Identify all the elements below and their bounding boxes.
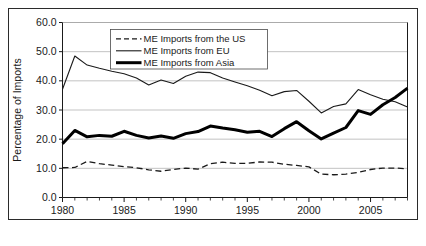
y-tick-label: 60.0 [36, 16, 57, 28]
y-axis-title: Percentage of Imports [11, 58, 23, 161]
y-tick-label: 40.0 [36, 74, 57, 86]
y-tick-label: 0.0 [42, 191, 57, 203]
series-line [63, 88, 408, 144]
x-tick-label: 1995 [236, 204, 260, 216]
line-chart: 0.010.020.030.040.050.060.0 198019851990… [0, 0, 426, 246]
figure-container: 0.010.020.030.040.050.060.0 198019851990… [0, 0, 426, 246]
legend-label: ME Imports from the US [144, 33, 246, 44]
legend-label: ME Imports from Asia [144, 57, 236, 68]
x-axis-ticks: 198019851990199520002005 [51, 198, 408, 216]
y-tick-label: 30.0 [36, 104, 57, 116]
y-axis-ticks: 0.010.020.030.040.050.060.0 [36, 16, 62, 203]
y-tick-label: 20.0 [36, 133, 57, 145]
x-tick-label: 1990 [174, 204, 198, 216]
y-tick-label: 50.0 [36, 45, 57, 57]
y-axis-title-text: Percentage of Imports [11, 58, 23, 161]
x-tick-label: 2000 [297, 204, 321, 216]
legend-label: ME Imports from EU [144, 45, 230, 56]
x-tick-label: 1980 [51, 204, 75, 216]
x-tick-label: 2005 [359, 204, 383, 216]
chart-legend: ME Imports from the USME Imports from EU… [111, 30, 268, 70]
y-tick-label: 10.0 [36, 162, 57, 174]
data-series [63, 56, 408, 175]
x-tick-label: 1985 [112, 204, 136, 216]
